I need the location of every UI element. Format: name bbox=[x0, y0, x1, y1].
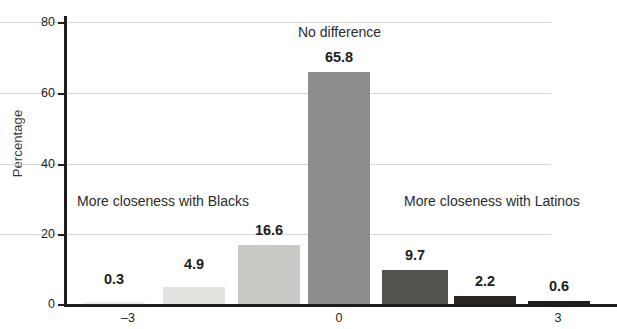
gridline-80 bbox=[0, 22, 551, 23]
y-tick-label-40: 40 bbox=[21, 157, 55, 171]
bar-chart: Percentage 80 60 40 20 0 0.3 4.9 16.6 65… bbox=[0, 0, 617, 329]
x-tick-label-0: 0 bbox=[309, 311, 369, 325]
x-tick-label-neg3: –3 bbox=[98, 311, 158, 325]
y-tick-mark-0 bbox=[58, 304, 67, 306]
gridline-60 bbox=[0, 93, 551, 94]
bar-pos2 bbox=[454, 296, 516, 304]
bar-pos3 bbox=[528, 301, 590, 304]
bar-neg2 bbox=[163, 287, 225, 304]
bar-value-pos3: 0.6 bbox=[514, 278, 604, 294]
y-tick-label-60: 60 bbox=[21, 86, 55, 100]
x-tick-label-3: 3 bbox=[528, 311, 588, 325]
y-tick-mark-20 bbox=[58, 234, 67, 236]
bar-pos1 bbox=[382, 270, 448, 304]
bar-value-neg1: 16.6 bbox=[224, 222, 314, 238]
bar-zero bbox=[308, 72, 370, 304]
bar-value-neg2: 4.9 bbox=[149, 256, 239, 272]
annotation-more-blacks: More closeness with Blacks bbox=[77, 193, 249, 209]
bar-neg3 bbox=[83, 302, 145, 305]
annotation-no-difference: No difference bbox=[268, 24, 411, 40]
bar-value-pos1: 9.7 bbox=[370, 247, 460, 263]
bar-value-zero: 65.8 bbox=[294, 49, 384, 65]
annotation-more-latinos: More closeness with Latinos bbox=[404, 193, 580, 209]
bar-value-neg3: 0.3 bbox=[69, 271, 159, 287]
y-tick-label-0: 0 bbox=[21, 297, 55, 311]
y-axis-title: Percentage bbox=[10, 89, 25, 199]
y-tick-mark-80 bbox=[58, 22, 67, 24]
y-axis-line bbox=[64, 16, 67, 307]
x-axis-line bbox=[66, 304, 617, 307]
y-tick-label-20: 20 bbox=[21, 227, 55, 241]
y-tick-label-80: 80 bbox=[21, 15, 55, 29]
bar-neg1 bbox=[238, 245, 300, 304]
gridline-40 bbox=[0, 164, 551, 165]
y-tick-mark-60 bbox=[58, 93, 67, 95]
y-tick-mark-40 bbox=[58, 164, 67, 166]
